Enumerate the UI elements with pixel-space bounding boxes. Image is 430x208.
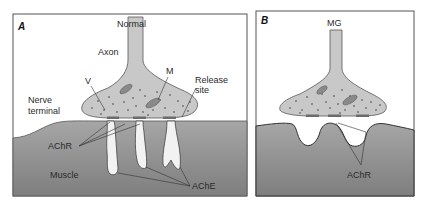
- axon-label: Axon: [98, 47, 119, 57]
- panel-b-title: MG: [327, 18, 342, 28]
- panel-b: B MG AChR: [256, 11, 414, 196]
- release-site-label-line2: site: [195, 85, 209, 95]
- panel-a-letter: A: [17, 21, 25, 32]
- release-site-label-line1: Release: [195, 75, 228, 85]
- nerve-terminal-label-line2: terminal: [28, 106, 60, 116]
- muscle-b: [256, 123, 414, 196]
- panel-b-letter: B: [261, 15, 268, 26]
- ache-label: AChE: [192, 181, 216, 191]
- nerve-terminal-label-line1: Nerve: [28, 95, 52, 105]
- vesicle-label: V: [85, 76, 91, 86]
- release-sites-b: [306, 115, 369, 118]
- release-sites-a: [107, 117, 176, 120]
- achr-label-a: AChR: [48, 141, 73, 151]
- neuromuscular-junction-diagram: A Normal Axon V M Release site Nerve ter…: [0, 0, 430, 208]
- achr-label-b: AChR: [347, 170, 372, 180]
- panel-a: A Normal Axon V M Release site Nerve ter…: [13, 14, 247, 196]
- mitochondrion-label: M: [166, 66, 174, 76]
- muscle-label: Muscle: [50, 170, 79, 180]
- panel-a-title: Normal: [117, 19, 146, 29]
